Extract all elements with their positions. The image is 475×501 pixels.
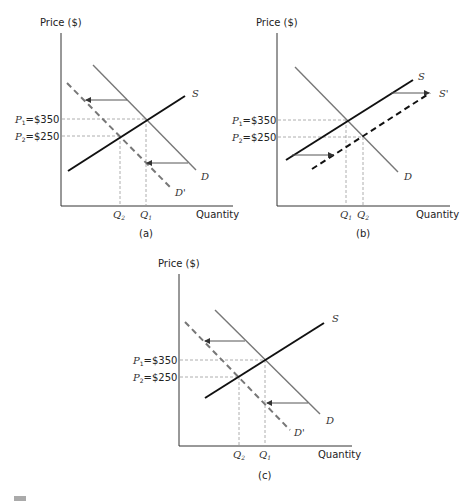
y-axis-label: Price ($) — [158, 258, 200, 269]
p2-label: P2=$250 — [231, 132, 276, 144]
panel-c: Price ($) Quantity S D D' P1=$350 P2=$25… — [132, 258, 361, 481]
shifted-supply-curve — [312, 93, 430, 169]
d-prime-label: D' — [174, 187, 186, 198]
p2-label: P2=$250 — [132, 372, 177, 384]
figure-marker — [14, 496, 26, 501]
supply-curve — [68, 96, 185, 171]
q2-label: Q2 — [233, 449, 245, 461]
s-prime-label: S' — [439, 88, 449, 99]
q2-label: Q2 — [357, 209, 369, 221]
d-label: D — [325, 415, 334, 426]
panel-a-caption: (a) — [139, 228, 153, 239]
demand-curve — [93, 65, 196, 170]
q1-label: Q1 — [340, 209, 352, 221]
s-label: S — [332, 313, 339, 324]
p1-label: P1=$350 — [132, 355, 177, 367]
x-axis-label: Quantity — [196, 209, 239, 220]
demand-curve — [215, 310, 320, 414]
shifted-demand-curve — [185, 322, 290, 430]
x-axis-label: Quantity — [416, 209, 459, 220]
panel-b-caption: (b) — [356, 228, 370, 239]
p1-label: P1=$350 — [231, 115, 276, 127]
q1-label: Q1 — [140, 209, 152, 221]
s-label: S — [192, 88, 199, 99]
s-label: S — [418, 71, 425, 82]
panel-c-caption: (c) — [258, 470, 271, 481]
p2-label: P2=$250 — [14, 131, 59, 143]
panel-a: Price ($) Quantity S D D' P1=$350 P2=$25… — [14, 17, 239, 239]
y-axis-label: Price ($) — [40, 17, 82, 28]
q1-label: Q1 — [259, 449, 271, 461]
d-label: D — [403, 171, 412, 182]
y-axis-label: Price ($) — [256, 17, 298, 28]
x-axis-label: Quantity — [318, 449, 361, 460]
shifted-demand-curve — [67, 83, 171, 188]
panel-b: Price ($) Quantity S S' D P1=$350 P2=$25… — [231, 17, 459, 239]
demand-curve — [295, 67, 398, 172]
figure: Price ($) Quantity S D D' P1=$350 P2=$25… — [0, 0, 475, 501]
q2-label: Q2 — [113, 209, 125, 221]
p1-label: P1=$350 — [14, 114, 59, 126]
d-prime-label: D' — [293, 427, 305, 438]
d-label: D — [200, 171, 209, 182]
